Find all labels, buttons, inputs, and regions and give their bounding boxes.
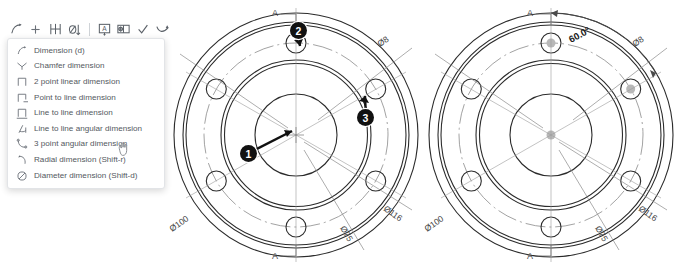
section-label-top: A [527,8,533,18]
dimension-icon [15,44,28,57]
point-to-line-icon [15,91,28,104]
checkmark-icon[interactable] [135,21,152,38]
callout-badge-1[interactable]: 1 [240,145,257,162]
center-lines [441,8,661,262]
text-note-icon[interactable]: A [96,21,113,38]
menu-item-label: 2 point linear dimension [34,78,120,86]
callout-badge-3[interactable]: 3 [357,109,374,126]
callout-badge-2[interactable]: 2 [290,22,307,39]
menu-item-label: Radial dimension (Shift-r) [34,156,126,164]
menu-item-dimension[interactable]: Dimension (d) [8,43,164,59]
dimension-dropdown-menu[interactable]: Dimension (d) Chamfer dimension 2 point … [7,38,165,189]
dimension-label-bolt-circle[interactable]: Ø75 [593,224,610,243]
callout-leaders [251,31,369,152]
menu-item-2-point-linear-dimension[interactable]: 2 point linear dimension [8,74,164,90]
dimension-label-angular[interactable]: 60.0° [567,24,592,44]
menu-item-label: Dimension (d) [34,47,85,55]
diameter-dimension-icon [15,169,28,182]
menu-item-point-to-line-dimension[interactable]: Point to line dimension [8,90,164,106]
toolbar-separator [89,23,90,36]
flange-drawing-before[interactable]: A A Ø100 Ø8 Ø116 Ø75 [168,0,424,271]
linear-dimension-icon[interactable] [47,21,64,38]
menu-item-chamfer-dimension[interactable]: Chamfer dimension [8,59,164,75]
two-point-linear-icon [15,75,28,88]
leader-line-icon[interactable] [154,21,171,38]
section-label-bottom: A [527,251,533,261]
flange-drawing-after[interactable]: A A 60.0° Ø100 Ø8 Ø116 Ø75 [424,0,679,271]
three-point-angular-icon [15,138,28,151]
center-mark [288,127,304,143]
section-label-bottom: A [272,251,278,261]
line-to-line-icon [15,107,28,120]
menu-item-label: Chamfer dimension [34,62,105,70]
dimension-label-outer[interactable]: Ø116 [637,203,660,223]
dimension-label-bolt-hole[interactable]: Ø8 [375,34,390,49]
dimension-label-od[interactable]: Ø100 [168,213,191,233]
line-to-line-angular-icon [15,122,28,135]
dimension-label-bolt-circle[interactable]: Ø75 [338,224,355,243]
dimension-label-bolt-hole[interactable]: Ø8 [630,34,645,49]
dimension-label-od[interactable]: Ø100 [424,213,446,233]
chamfer-dimension-icon [15,60,28,73]
dimension-label-outer[interactable]: Ø116 [382,203,405,223]
menu-item-label: 3 point angular dimension [34,140,127,148]
menu-item-diameter-dimension[interactable]: Diameter dimension (Shift-d) [8,168,164,184]
section-label-top: A [272,8,278,18]
menu-item-3-point-angular-dimension[interactable]: 3 point angular dimension [8,137,164,153]
menu-item-label: Line to line dimension [34,109,113,117]
radial-dimension-icon [15,153,28,166]
plus-icon[interactable] [28,21,45,38]
menu-item-line-to-line-angular-dimension[interactable]: Line to line angular dimension [8,121,164,137]
dimension-toolbar[interactable]: A [8,18,171,40]
diameter-dimension-icon[interactable] [67,21,84,38]
menu-item-label: Point to line dimension [34,94,116,102]
menu-item-label: Line to line angular dimension [34,125,142,133]
menu-item-label: Diameter dimension (Shift-d) [34,172,138,180]
svg-text:A: A [102,25,107,32]
dimension-icon[interactable] [8,21,25,38]
menu-item-line-to-line-dimension[interactable]: Line to line dimension [8,105,164,121]
menu-item-radial-dimension[interactable]: Radial dimension (Shift-r) [8,152,164,168]
feature-control-frame-icon[interactable] [115,21,132,38]
screenshot-canvas: A A Ø100 Ø8 Ø116 Ø75 [0,0,679,271]
